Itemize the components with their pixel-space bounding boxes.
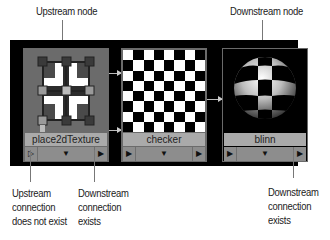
upstream-node-label: Upstream node — [36, 4, 97, 18]
downstream-conn-leader-2 — [293, 150, 294, 178]
shaded-sphere-icon — [224, 50, 306, 132]
connection-line[interactable] — [109, 130, 121, 131]
node-checker[interactable]: checker ▶ ▼ ▶ — [121, 48, 207, 162]
upstream-port-icon[interactable]: ▶ — [224, 147, 237, 161]
expand-ports-icon[interactable]: ▼ — [237, 147, 293, 161]
place2d-manipulator-icon — [25, 50, 107, 132]
downstream-conn-exists-label-2: Downstream connection exists — [268, 185, 319, 227]
connection-line[interactable] — [109, 73, 121, 74]
upstream-conn-leader — [30, 150, 31, 182]
downstream-node-label: Downstream node — [230, 4, 303, 18]
upstream-conn-missing-label: Upstream connection does not exist — [12, 186, 67, 228]
downstream-conn-exists-label-1: Downstream connection exists — [78, 186, 129, 228]
downstream-port-icon[interactable]: ▶ — [192, 147, 205, 161]
checker-swatch — [123, 50, 205, 132]
blinn-swatch — [224, 50, 306, 132]
expand-ports-icon[interactable]: ▼ — [38, 147, 94, 161]
place2d-swatch — [25, 50, 107, 132]
node-place2dtexture[interactable]: place2dTexture ▷ ▼ ▶ — [23, 48, 109, 162]
upstream-port-icon[interactable]: ▶ — [123, 147, 136, 161]
downstream-port-icon[interactable]: ▶ — [293, 147, 306, 161]
expand-ports-icon[interactable]: ▼ — [136, 147, 192, 161]
node-name: blinn — [224, 133, 306, 146]
upstream-port-empty-icon[interactable]: ▷ — [25, 147, 38, 161]
node-name: place2dTexture — [25, 133, 107, 146]
port-bar: ▶ ▼ ▶ — [123, 147, 205, 161]
downstream-conn-leader-1 — [94, 150, 95, 182]
node-blinn[interactable]: blinn ▶ ▼ ▶ — [222, 48, 308, 162]
downstream-port-icon[interactable]: ▶ — [94, 147, 107, 161]
checker-pattern-icon — [123, 50, 205, 132]
hypershade-graph-panel: place2dTexture ▷ ▼ ▶ checker ▶ ▼ — [10, 40, 298, 166]
connection-line[interactable] — [207, 99, 222, 100]
node-name: checker — [123, 133, 205, 146]
